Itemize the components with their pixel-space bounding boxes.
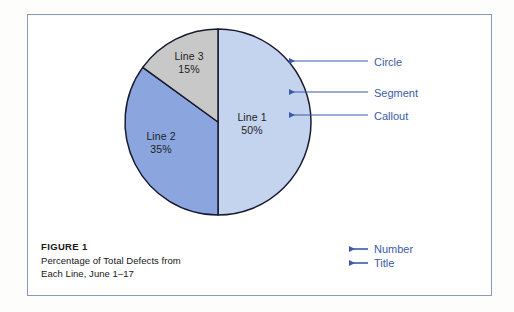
slice-label-line-1-name: Line 1 bbox=[237, 111, 266, 123]
slice-label-line-2: Line 2 35% bbox=[131, 130, 191, 156]
callout-label-number: Number bbox=[374, 243, 413, 255]
figure-page: Line 1 50% Line 2 35% Line 3 15% Circle … bbox=[0, 0, 514, 312]
slice-label-line-3: Line 3 15% bbox=[159, 50, 219, 76]
slice-label-line-2-name: Line 2 bbox=[146, 130, 175, 142]
caption-title-line-2: Each Line, June 1–17 bbox=[41, 267, 271, 281]
callout-label-callout: Callout bbox=[374, 110, 408, 122]
slice-label-line-1: Line 1 50% bbox=[222, 111, 282, 137]
pie-chart bbox=[98, 14, 338, 230]
slice-label-line-3-name: Line 3 bbox=[174, 50, 203, 62]
figure-caption: FIGURE 1 Percentage of Total Defects fro… bbox=[41, 240, 271, 281]
slice-label-line-3-percent: 15% bbox=[159, 63, 219, 76]
callout-label-circle: Circle bbox=[374, 56, 402, 68]
slice-label-line-1-percent: 50% bbox=[222, 124, 282, 137]
callout-label-segment: Segment bbox=[374, 87, 418, 99]
caption-title-line-1: Percentage of Total Defects from bbox=[41, 254, 271, 268]
slice-label-line-2-percent: 35% bbox=[131, 143, 191, 156]
caption-figure-number: FIGURE 1 bbox=[41, 240, 271, 254]
callout-label-title: Title bbox=[374, 257, 394, 269]
